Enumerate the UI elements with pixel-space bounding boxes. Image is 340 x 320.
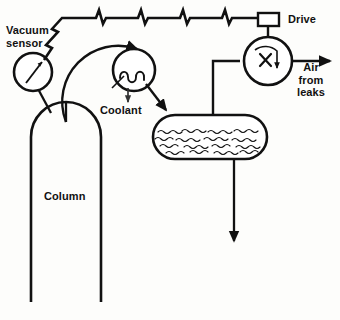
coolant-to-condenser-arrow	[146, 84, 166, 110]
vacuum-pump	[244, 37, 292, 85]
coolant-label: Coolant	[100, 104, 142, 117]
coolant-unit	[112, 49, 155, 91]
coolant-circle	[113, 49, 155, 91]
condenser-vessel	[153, 115, 267, 159]
drive-unit-box	[258, 13, 279, 26]
vacuum-sensor-label: Vacuum sensor	[6, 24, 49, 49]
process-flow-diagram: Vacuum sensor Coolant Column Drive Air f…	[0, 0, 340, 320]
vacuum-pump-body	[244, 37, 292, 85]
vacuum-sensor-gauge	[14, 53, 52, 113]
diagram-canvas	[0, 0, 340, 320]
column-label: Column	[44, 190, 86, 203]
vacuum-signal-zigzag-line	[44, 10, 258, 60]
drive-label: Drive	[288, 13, 316, 26]
condenser-to-pump-pipe	[213, 61, 240, 115]
air-from-leaks-label: Air from leaks	[297, 61, 325, 99]
